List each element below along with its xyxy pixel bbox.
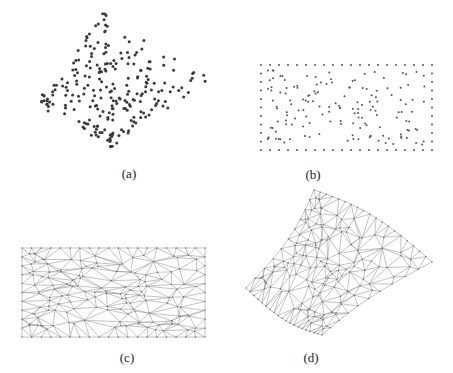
- point: [357, 108, 359, 110]
- point: [171, 284, 172, 285]
- point: [39, 293, 40, 294]
- point: [55, 84, 58, 87]
- point: [338, 105, 340, 107]
- point: [171, 324, 172, 325]
- point: [144, 295, 145, 296]
- point: [182, 96, 185, 99]
- point: [99, 131, 102, 134]
- point: [377, 149, 379, 151]
- point: [204, 292, 205, 293]
- point: [249, 291, 250, 292]
- point: [410, 259, 411, 260]
- point: [107, 309, 108, 310]
- point: [306, 75, 308, 77]
- point: [407, 240, 408, 241]
- point: [31, 336, 32, 337]
- point: [135, 51, 138, 54]
- point: [328, 111, 330, 113]
- point: [34, 261, 35, 262]
- point: [296, 243, 297, 244]
- point: [70, 247, 71, 248]
- point: [71, 68, 74, 71]
- point: [60, 269, 61, 270]
- point: [47, 105, 50, 108]
- point: [398, 111, 400, 113]
- point: [260, 107, 262, 109]
- point: [334, 286, 335, 287]
- point: [138, 323, 139, 324]
- point: [352, 138, 354, 140]
- point: [325, 277, 326, 278]
- point: [319, 292, 320, 293]
- point: [127, 313, 128, 314]
- point: [204, 274, 205, 275]
- point: [274, 266, 275, 267]
- point: [311, 230, 312, 231]
- point: [270, 286, 271, 287]
- point: [287, 149, 289, 151]
- point: [204, 336, 205, 337]
- point: [276, 108, 278, 110]
- point: [335, 314, 336, 315]
- point: [293, 86, 295, 88]
- point: [179, 268, 180, 269]
- point: [97, 41, 100, 44]
- point: [340, 296, 341, 297]
- point: [147, 336, 148, 337]
- point: [49, 297, 50, 298]
- point: [293, 263, 294, 264]
- point: [307, 239, 308, 240]
- point: [130, 271, 131, 272]
- point: [58, 303, 59, 304]
- point: [419, 251, 420, 252]
- point: [162, 56, 165, 59]
- point: [161, 279, 162, 280]
- point: [116, 271, 117, 272]
- point: [21, 327, 22, 328]
- point: [260, 98, 262, 100]
- point: [309, 136, 311, 138]
- point: [402, 72, 404, 74]
- point: [351, 204, 352, 205]
- point: [94, 255, 95, 256]
- point: [89, 45, 92, 48]
- point: [104, 46, 107, 49]
- point: [382, 221, 383, 222]
- point: [431, 149, 433, 151]
- point: [287, 262, 288, 263]
- point: [346, 231, 347, 232]
- point: [134, 54, 137, 57]
- point: [431, 132, 433, 134]
- point: [314, 316, 315, 317]
- point: [341, 275, 342, 276]
- point: [260, 73, 262, 75]
- point: [82, 125, 85, 128]
- point: [366, 124, 368, 126]
- point: [320, 318, 321, 319]
- point: [46, 329, 47, 330]
- point: [281, 75, 283, 77]
- point: [172, 86, 175, 89]
- point: [175, 336, 176, 337]
- point: [339, 253, 340, 254]
- point: [270, 90, 272, 92]
- point: [85, 35, 88, 38]
- point: [73, 308, 74, 309]
- point: [285, 320, 286, 321]
- point: [310, 323, 311, 324]
- point: [66, 81, 69, 84]
- point: [102, 110, 105, 113]
- point: [284, 79, 286, 81]
- point: [21, 247, 22, 248]
- point: [349, 86, 351, 88]
- point: [67, 294, 68, 295]
- point: [52, 325, 53, 326]
- point: [277, 315, 278, 316]
- point: [51, 103, 54, 106]
- point: [412, 99, 414, 101]
- point: [96, 307, 97, 308]
- point: [108, 111, 111, 114]
- point: [103, 18, 106, 21]
- point: [41, 336, 42, 337]
- point: [288, 291, 289, 292]
